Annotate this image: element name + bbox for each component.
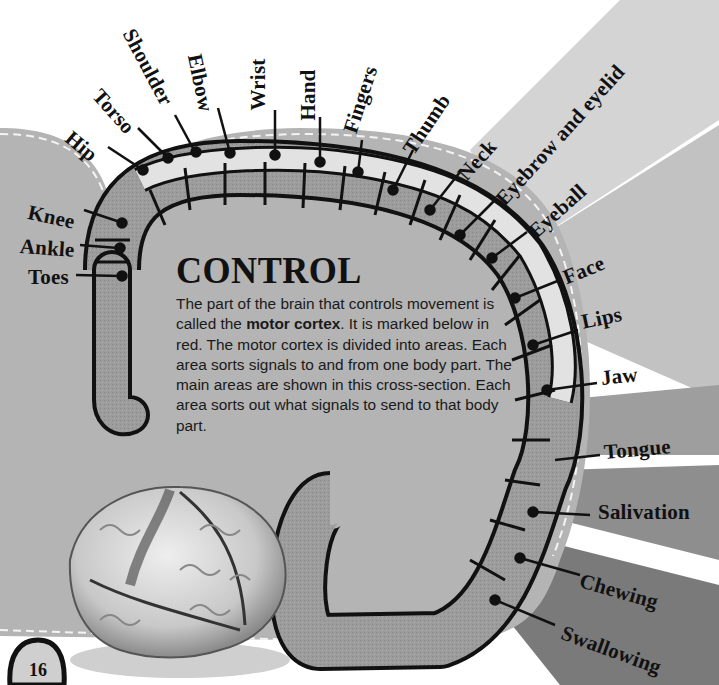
label-ankle: Ankle xyxy=(19,234,75,263)
label-salivation: Salivation xyxy=(598,500,690,525)
brain-illustration xyxy=(70,487,290,678)
label-toes: Toes xyxy=(28,265,69,290)
label-hand: Hand xyxy=(296,70,321,121)
body-text-bold: motor cortex xyxy=(246,315,340,332)
page-number: 16 xyxy=(20,660,56,681)
body-paragraph: The part of the brain that controls move… xyxy=(176,294,516,436)
label-jaw: Jaw xyxy=(600,362,639,391)
label-wrist: Wrist xyxy=(246,59,271,111)
body-text-after: . It is marked below in red. The motor c… xyxy=(176,315,512,433)
page-title: CONTROL xyxy=(176,248,362,292)
